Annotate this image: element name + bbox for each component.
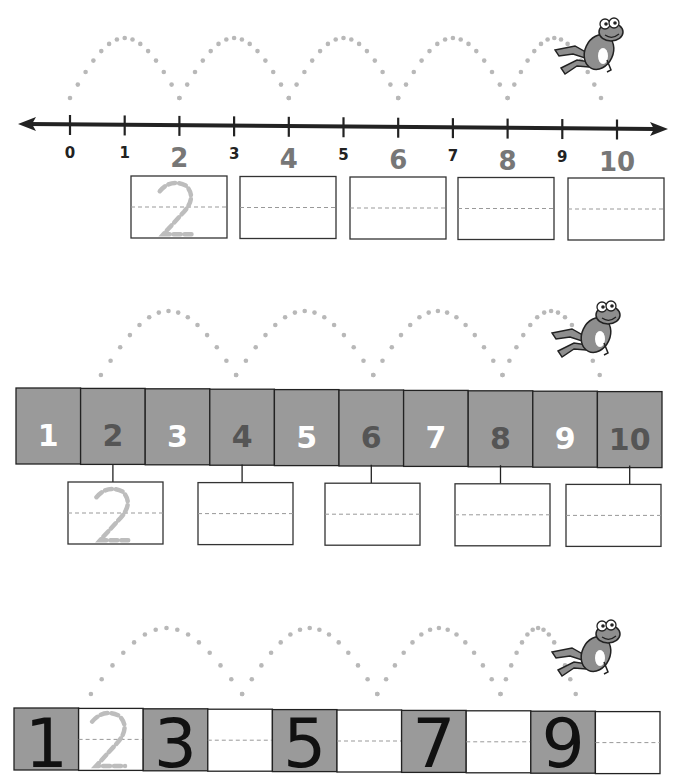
strip-cell-given: 7 [402,704,467,783]
hop-dot [419,58,424,63]
answer-box[interactable] [568,178,664,240]
hop-dot [259,663,264,668]
hop-dot [342,333,347,338]
strip-cell-blank[interactable] [466,711,531,773]
hop-dot [384,677,389,682]
hop-dot [463,323,468,328]
hop-dot [519,70,524,75]
hop-dot [175,627,180,632]
strip-cell-given: 1 [14,704,79,783]
answer-box[interactable] [350,177,446,239]
hop-dot [436,309,441,314]
hop-dot [176,310,181,315]
strip-cell-number: 1 [25,704,68,783]
hop-dot [205,333,210,338]
tick-label: 5 [338,146,348,164]
hop-dot [482,345,487,350]
strip-cell-number: 6 [361,420,382,455]
answer-box[interactable] [68,482,163,544]
frog-pupil [613,21,617,25]
hop-dot [240,692,245,697]
hop-dot [122,36,127,41]
answer-box[interactable] [131,176,227,238]
hop-dot [130,37,135,42]
hop-dot [115,37,120,42]
tick-label: 8 [499,146,517,176]
hop-dot [318,49,323,54]
hop-dot [287,96,292,101]
hop-dot [146,49,151,54]
frog-pupil [604,22,608,26]
answer-box[interactable] [458,178,554,240]
hop-dot [525,58,530,63]
hop-dot [445,627,450,632]
hop-dot [437,626,442,631]
hop-dot [263,333,268,338]
hop-dot [162,70,167,75]
hop-dot [83,70,88,75]
hop-dot [426,310,431,315]
hop-dot [552,36,557,41]
hop-dot [271,70,276,75]
hop-dot [504,677,509,682]
answer-box[interactable] [566,484,661,546]
hop-dot [247,42,252,47]
strip-cell: 1 [16,388,81,464]
hop-dot [474,49,479,54]
hop-dot [570,323,575,328]
tick-label: 9 [557,148,567,166]
hop-dot [294,82,299,87]
strip-cell: 6 [339,390,404,466]
strip-cell-number: 5 [283,704,326,783]
hop-dot [373,58,378,63]
answer-box[interactable] [240,177,336,239]
hop-dot [234,373,239,378]
hop-dot [365,49,370,54]
answer-box[interactable] [325,483,420,545]
hop-dot [99,373,104,378]
hop-dot [201,58,206,63]
strip-cell-number: 1 [38,418,59,453]
hop-dot [592,82,597,87]
hop-dot [224,359,229,364]
hop-arcs [99,309,602,378]
hop-dot [435,42,440,47]
tick-label: 6 [389,145,407,175]
answer-box[interactable] [455,484,550,546]
hop-dot [317,627,322,632]
hop-dot [273,323,278,328]
hop-dot [549,309,554,314]
hop-dot [597,373,602,378]
frog-icon [555,18,623,74]
hop-dot [445,310,450,315]
hop-dot [380,70,385,75]
strip-cell-number: 2 [102,418,123,453]
frog-belly [595,331,605,347]
hop-dot [283,315,288,320]
hop-dot [521,333,526,338]
hop-dot [466,42,471,47]
strip-cell-blank[interactable] [337,710,402,772]
tick-label: 10 [599,147,635,177]
writing-strip-section: 13579 [14,620,660,783]
frog-pupil [601,624,605,628]
hop-dot [333,37,338,42]
frog-pupil [610,623,614,627]
strip-cell-number: 7 [412,704,455,783]
hop-dot [99,49,104,54]
answer-box[interactable] [198,483,293,545]
tick-label: 3 [229,145,239,163]
hop-dot [451,36,456,41]
strip-cell-blank[interactable] [595,712,660,774]
strip-cell-blank[interactable] [79,708,144,770]
hop-dot [500,373,505,378]
strip-cell-blank[interactable] [208,709,273,771]
worksheet-canvas: 012345678910 12345678910 13579 [0,0,683,784]
hop-dot [137,323,142,328]
hop-dot [298,627,303,632]
hop-dot [545,37,550,42]
strip-cell-given: 3 [143,704,208,783]
hop-dot [195,323,200,328]
hop-dot [121,651,126,656]
hop-dot [89,692,94,697]
